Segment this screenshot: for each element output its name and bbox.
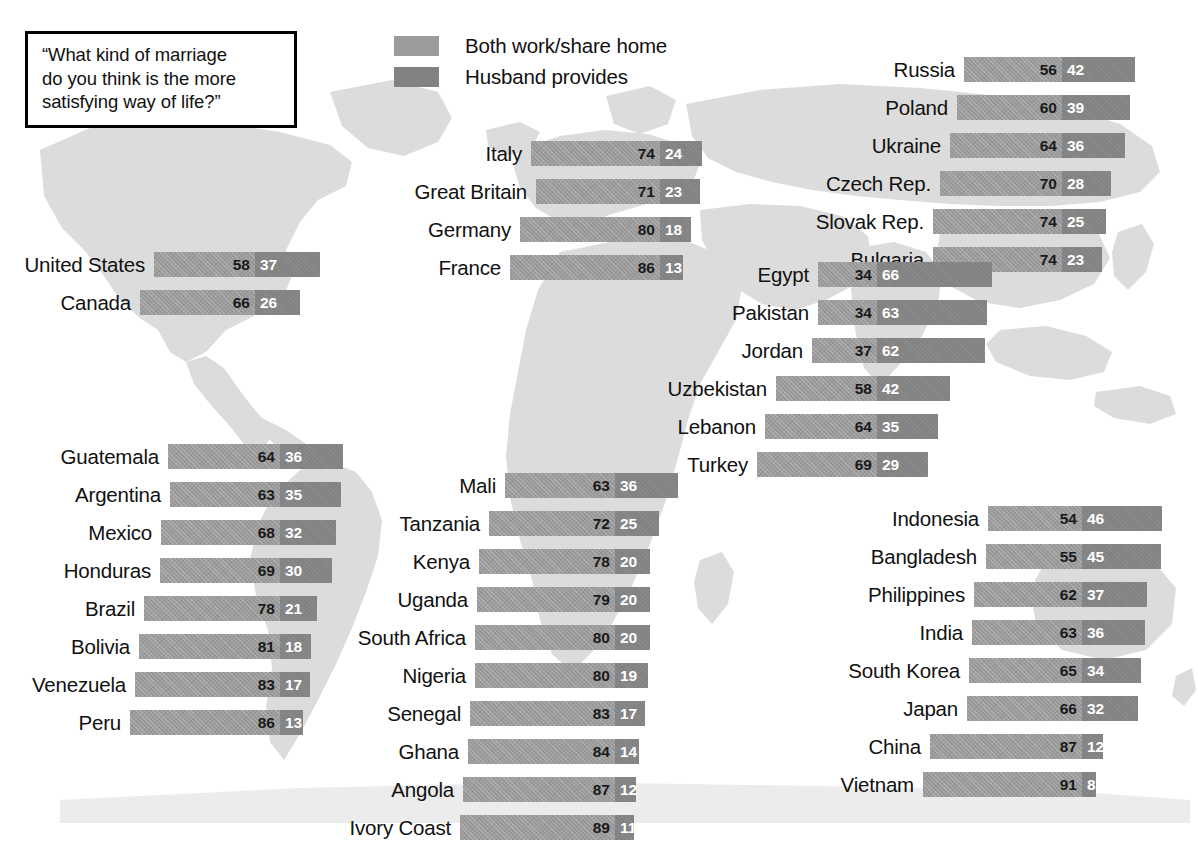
stacked-bar[interactable]: 7123	[536, 179, 700, 204]
bar-segment-husband-provides: 34	[1082, 658, 1141, 683]
stacked-bar[interactable]: 7820	[479, 549, 650, 574]
bar-value-both-work: 58	[233, 256, 250, 274]
stacked-bar[interactable]: 6534	[969, 658, 1141, 683]
country-label: Egypt	[634, 262, 809, 287]
bar-value-husband-provides: 46	[1087, 510, 1104, 528]
stacked-bar[interactable]: 6039	[957, 95, 1130, 120]
stacked-bar[interactable]: 8317	[135, 672, 310, 697]
bar-segment-both-work: 64	[765, 414, 877, 439]
bar-value-both-work: 74	[1040, 251, 1057, 269]
country-label: Tanzania	[305, 511, 480, 536]
bar-segment-both-work: 68	[161, 520, 280, 545]
stacked-bar[interactable]: 8613	[130, 710, 303, 735]
stacked-bar[interactable]: 7920	[477, 587, 650, 612]
stacked-bar[interactable]: 8020	[475, 625, 650, 650]
bar-segment-husband-provides: 20	[615, 625, 650, 650]
stacked-bar[interactable]: 8414	[468, 739, 639, 764]
country-label: France	[341, 255, 501, 280]
bar-segment-both-work: 78	[144, 596, 280, 621]
bar-segment-husband-provides: 39	[1062, 95, 1130, 120]
bar-segment-both-work: 60	[957, 95, 1062, 120]
bar-segment-husband-provides: 12	[615, 777, 636, 802]
bar-segment-both-work: 81	[139, 634, 280, 659]
bar-segment-husband-provides: 23	[1062, 247, 1102, 272]
question-line-1: “What kind of marriage	[42, 43, 282, 67]
bar-segment-both-work: 70	[940, 171, 1062, 196]
bar-segment-husband-provides: 63	[877, 300, 987, 325]
bar-segment-both-work: 64	[950, 133, 1062, 158]
country-label: Nigeria	[291, 663, 466, 688]
bar-value-both-work: 71	[638, 183, 655, 201]
country-label: South Africa	[291, 625, 466, 650]
country-label: Guatemala	[0, 444, 159, 469]
stacked-bar[interactable]: 6436	[168, 444, 343, 469]
country-label: Vietnam	[739, 772, 914, 797]
country-label: Great Britain	[367, 179, 527, 204]
bar-segment-both-work: 34	[818, 300, 877, 325]
country-label: Mexico	[0, 520, 152, 545]
stacked-bar[interactable]: 6929	[757, 452, 928, 477]
country-label: Pakistan	[634, 300, 809, 325]
stacked-bar[interactable]: 5446	[988, 506, 1162, 531]
stacked-bar[interactable]: 6336	[972, 620, 1145, 645]
stacked-bar[interactable]: 3762	[812, 338, 985, 363]
bar-value-husband-provides: 13	[665, 259, 682, 277]
bar-segment-both-work: 69	[160, 558, 280, 583]
country-label: Mali	[321, 473, 496, 498]
bar-segment-husband-provides: 25	[1062, 209, 1106, 234]
bar-segment-husband-provides: 42	[877, 376, 950, 401]
bar-segment-husband-provides: 14	[615, 739, 639, 764]
stacked-bar[interactable]: 6436	[950, 133, 1125, 158]
bar-segment-husband-provides: 17	[615, 701, 645, 726]
bar-value-both-work: 63	[593, 477, 610, 495]
stacked-bar[interactable]: 6632	[967, 696, 1138, 721]
stacked-bar[interactable]: 7425	[933, 209, 1106, 234]
stacked-bar[interactable]: 8019	[475, 663, 648, 688]
stacked-bar[interactable]: 8317	[470, 701, 645, 726]
bar-value-both-work: 66	[1060, 700, 1077, 718]
bar-value-husband-provides: 18	[665, 221, 682, 239]
legend-item-husband-provides: Husband provides	[394, 61, 667, 92]
bar-value-husband-provides: 20	[620, 629, 637, 647]
bar-value-husband-provides: 12	[1087, 738, 1104, 756]
stacked-bar[interactable]: 8712	[463, 777, 636, 802]
bar-segment-husband-provides: 36	[1062, 133, 1125, 158]
stacked-bar[interactable]: 7424	[531, 141, 702, 166]
stacked-bar[interactable]: 7821	[144, 596, 317, 621]
stacked-bar[interactable]: 3466	[818, 262, 992, 287]
bar-value-husband-provides: 36	[1067, 137, 1084, 155]
bar-value-husband-provides: 28	[1067, 175, 1084, 193]
question-callout-box: “What kind of marriage do you think is t…	[25, 31, 297, 128]
bar-value-both-work: 63	[1060, 624, 1077, 642]
stacked-bar[interactable]: 5842	[776, 376, 950, 401]
stacked-bar[interactable]: 8712	[930, 734, 1103, 759]
bar-value-both-work: 69	[855, 456, 872, 474]
stacked-bar[interactable]: 5545	[986, 544, 1161, 569]
bar-value-husband-provides: 19	[620, 667, 637, 685]
bar-value-both-work: 60	[1040, 99, 1057, 117]
stacked-bar[interactable]: 7028	[940, 171, 1111, 196]
stacked-bar[interactable]: 6237	[974, 582, 1147, 607]
stacked-bar[interactable]: 5837	[154, 252, 320, 277]
stacked-bar[interactable]: 6435	[765, 414, 938, 439]
stacked-bar[interactable]: 8018	[520, 217, 691, 242]
bar-value-both-work: 68	[258, 524, 275, 542]
bar-segment-both-work: 66	[967, 696, 1082, 721]
stacked-bar[interactable]: 6626	[140, 290, 300, 315]
bar-segment-husband-provides: 66	[877, 262, 992, 287]
stacked-bar[interactable]: 5642	[964, 57, 1135, 82]
country-label: Ghana	[284, 739, 459, 764]
legend-label-both-work: Both work/share home	[465, 34, 667, 58]
bar-value-husband-provides: 13	[285, 714, 302, 732]
bar-value-husband-provides: 18	[285, 638, 302, 656]
stacked-bar[interactable]: 7225	[489, 511, 659, 536]
bar-segment-husband-provides: 20	[615, 587, 650, 612]
stacked-bar[interactable]: 8118	[139, 634, 311, 659]
stacked-bar[interactable]: 8911	[460, 815, 634, 840]
stacked-bar[interactable]: 6336	[505, 473, 678, 498]
country-label: South Korea	[785, 658, 960, 683]
stacked-bar[interactable]: 3463	[818, 300, 987, 325]
stacked-bar[interactable]: 918	[923, 772, 1096, 797]
stacked-bar[interactable]: 6335	[170, 482, 341, 507]
bar-value-husband-provides: 66	[882, 266, 899, 284]
